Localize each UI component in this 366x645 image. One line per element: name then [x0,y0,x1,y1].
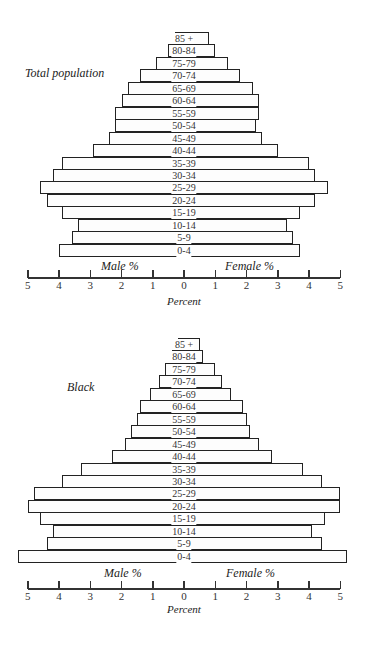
x-axis-title: Percent [144,603,224,615]
axis-tick [308,581,310,589]
axis-tick [90,581,92,589]
axis-tick-label: 5 [18,590,38,602]
age-group-label: 60-64 [171,401,196,413]
axis-tick-label: 0 [174,590,194,602]
age-group-label: 85 + [174,339,194,351]
axis-tick [215,581,217,589]
female-label: Female % [226,566,275,581]
axis-tick-label: 4 [299,590,319,602]
age-group-label: 75-79 [171,364,196,376]
axis-tick [340,581,342,589]
axis-tick-label: 1 [205,590,225,602]
axis-tick-label: 2 [112,590,132,602]
age-group-label: 45-49 [171,439,196,451]
axis-tick [58,581,60,589]
age-group-label: 30-34 [171,476,196,488]
age-group-label: 65-69 [171,389,196,401]
age-group-label: 50-54 [171,426,196,438]
axis-tick [183,581,185,589]
axis-tick-label: 3 [268,590,288,602]
age-group-label: 35-39 [171,464,196,476]
axis-tick [246,581,248,589]
axis-tick-label: 3 [80,590,100,602]
axis-tick [121,581,123,589]
age-group-label: 40-44 [171,451,196,463]
pyramid-black: Black 85 +80-8475-7970-7465-6960-6455-59… [0,0,366,645]
axis-tick-label: 2 [237,590,257,602]
axis-tick-label: 4 [49,590,69,602]
axis-tick [152,581,154,589]
age-group-label: 20-24 [171,501,196,513]
axis-tick [277,581,279,589]
age-group-label: 10-14 [171,526,196,538]
age-group-label: 80-84 [171,351,196,363]
axis-tick [27,581,29,589]
age-group-label: 70-74 [171,376,196,388]
age-group-label: 15-19 [171,513,196,525]
chart-title: Black [67,380,94,395]
age-group-label: 0-4 [176,551,191,563]
age-group-label: 55-59 [171,414,196,426]
age-group-label: 5-9 [176,538,191,550]
axis-tick-label: 5 [330,590,350,602]
axis-tick-label: 1 [143,590,163,602]
male-label: Male % [104,566,142,581]
age-group-label: 25-29 [171,488,196,500]
